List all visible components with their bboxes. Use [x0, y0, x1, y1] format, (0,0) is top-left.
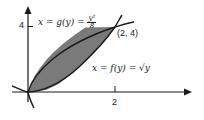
curve-g-fraction: y² 8: [87, 15, 96, 30]
curve-g-label: x = g(y) = y² 8: [38, 15, 96, 30]
curve-g-label-lhs: x = g(y) =: [38, 17, 85, 27]
x-axis-arrow-icon: [184, 89, 192, 96]
x-tick-label: 2: [112, 98, 117, 107]
intersection-label: (2, 4): [117, 29, 138, 38]
y-tick-label: 4: [19, 21, 24, 30]
y-axis-arrow-icon: [25, 6, 32, 14]
shaded-region: [28, 27, 115, 92]
fraction-denominator: 8: [87, 23, 96, 30]
diagram-canvas: [0, 0, 204, 120]
curve-f-label: x = f(y) = √y: [92, 64, 150, 73]
